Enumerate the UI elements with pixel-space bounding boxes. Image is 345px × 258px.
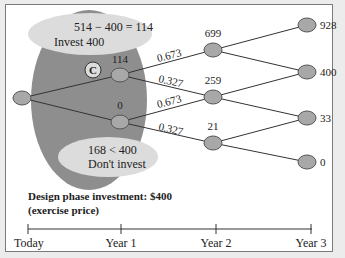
caption-subtitle: (exercise price) <box>28 204 99 217</box>
prob-down-2: 0.327 <box>158 120 185 137</box>
value-year2-up: 699 <box>205 27 222 39</box>
marker-c-label: C <box>89 64 97 76</box>
dont-invest-text: Don't invest <box>88 157 146 171</box>
value-year3-b: 400 <box>320 66 337 78</box>
node-year1-down <box>111 115 129 129</box>
value-year1-up: 114 <box>112 53 129 65</box>
node-year1-up <box>111 68 129 82</box>
node-year3-d <box>298 155 316 169</box>
value-year2-mid: 259 <box>205 74 222 86</box>
node-year3-c <box>298 111 316 125</box>
value-year3-d: 0 <box>320 156 326 168</box>
value-year3-c: 33 <box>320 112 332 124</box>
node-year3-b <box>298 65 316 79</box>
timeline-year1: Year 1 <box>105 236 136 250</box>
invest-calc-text: 514 − 400 = 114 <box>74 20 153 34</box>
dont-invest-calc-text: 168 < 400 <box>88 143 137 157</box>
node-year2-mid <box>204 90 222 104</box>
prob-up-2: 0.673 <box>156 92 183 110</box>
value-year1-down: 0 <box>117 99 123 111</box>
caption-title: Design phase investment: $400 <box>28 190 172 202</box>
value-year3-a: 928 <box>320 19 337 31</box>
invest-text: Invest 400 <box>54 35 104 49</box>
node-year3-a <box>298 18 316 32</box>
node-today <box>13 91 31 105</box>
decision-tree: 514 − 400 = 114 Invest 400 168 < 400 Don… <box>0 0 345 258</box>
timeline-year2: Year 2 <box>200 236 231 250</box>
timeline-today: Today <box>14 236 44 250</box>
prob-down-1: 0.327 <box>158 72 185 89</box>
node-year2-up <box>204 43 222 57</box>
value-year2-down: 21 <box>208 120 219 132</box>
timeline-year3: Year 3 <box>295 236 326 250</box>
node-year2-down <box>204 136 222 150</box>
